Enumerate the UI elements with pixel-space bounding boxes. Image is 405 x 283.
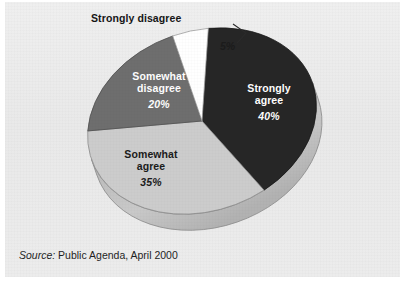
pie-value-somewhat-disagree: 20%	[113, 98, 205, 110]
pie-label-strongly-agree-line2: agree	[255, 94, 284, 106]
source-note: Source: Public Agenda, April 2000	[19, 249, 178, 261]
pie-label-strongly-disagree: Strongly disagree	[91, 12, 181, 24]
pie-label-somewhat-disagree-line1: Somewhat	[132, 70, 185, 82]
chart-panel: Strongly disagree 5% Somewhat disagree 2…	[5, 2, 400, 277]
pie-chart-area: Strongly disagree 5% Somewhat disagree 2…	[5, 2, 400, 277]
pie-slices	[62, 2, 342, 244]
pie-label-somewhat-agree-line1: Somewhat	[124, 148, 177, 160]
pie-value-strongly-disagree: 5%	[220, 40, 235, 52]
pie-label-strongly-disagree-text: Strongly disagree	[91, 12, 181, 24]
pie-value-somewhat-agree: 35%	[103, 176, 199, 188]
pie-label-somewhat-disagree-line2: disagree	[137, 82, 181, 94]
pie-label-somewhat-agree: Somewhat agree 35%	[103, 148, 199, 188]
pie-label-strongly-agree: Strongly agree 40%	[233, 82, 305, 122]
pie-label-strongly-agree-line1: Strongly	[247, 82, 290, 94]
pie-label-somewhat-disagree: Somewhat disagree 20%	[113, 70, 205, 110]
pie-chart-svg	[5, 2, 400, 277]
pie-value-strongly-agree: 40%	[233, 110, 305, 122]
pie-chart-figure: Strongly disagree 5% Somewhat disagree 2…	[0, 0, 405, 283]
source-label: Source:	[19, 249, 55, 261]
pie-label-somewhat-agree-line2: agree	[137, 160, 166, 172]
source-value: Public Agenda, April 2000	[58, 249, 178, 261]
